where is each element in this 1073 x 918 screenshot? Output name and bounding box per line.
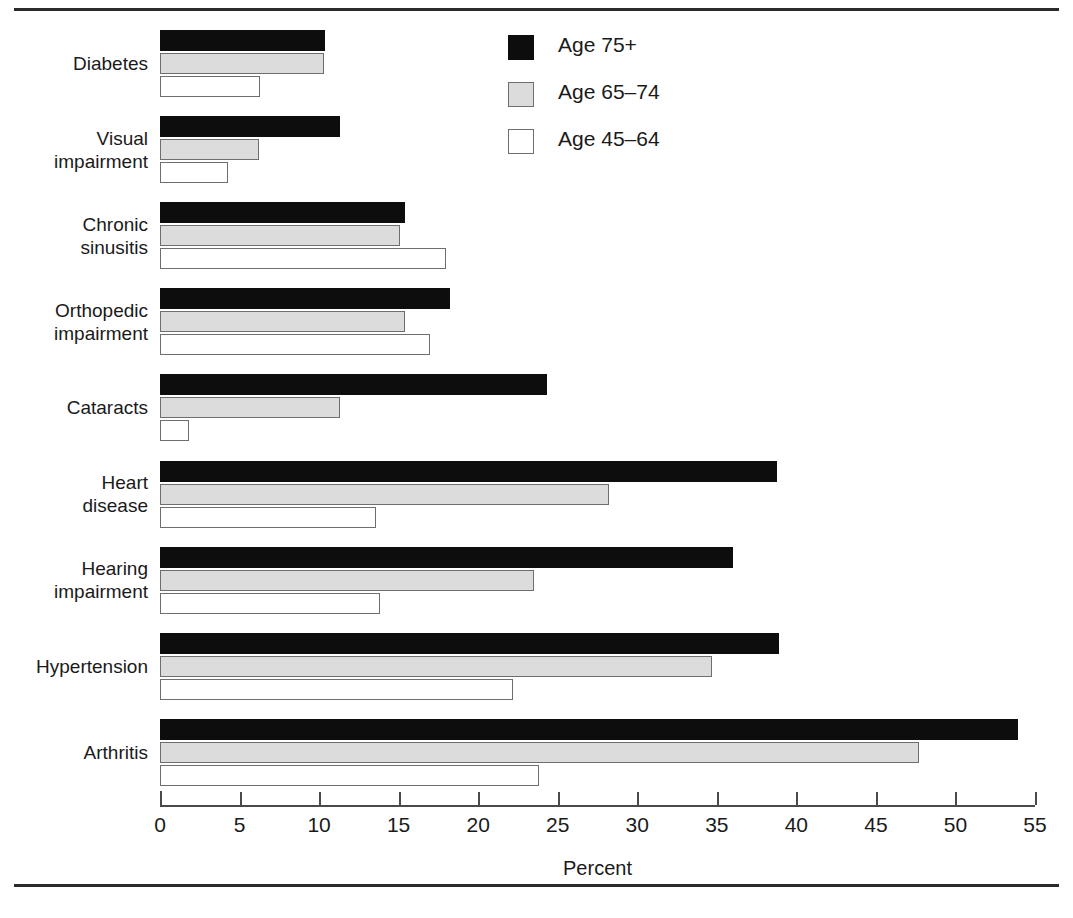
x-axis-tick	[319, 792, 321, 805]
x-axis-tick	[478, 792, 480, 805]
bar	[160, 162, 228, 183]
x-axis-tick	[240, 792, 242, 805]
category-label: Heart disease	[0, 471, 148, 517]
category-axis-labels: DiabetesVisual impairmentChronic sinusit…	[0, 30, 148, 805]
bar-group	[160, 288, 1035, 374]
bar-group	[160, 633, 1035, 719]
x-axis-tick-label: 25	[546, 813, 569, 837]
legend-swatch-icon	[508, 35, 534, 60]
bar	[160, 202, 405, 223]
bar	[160, 633, 779, 654]
bar	[160, 507, 376, 528]
bar	[160, 397, 340, 418]
bar	[160, 311, 405, 332]
legend-label: Age 75+	[558, 33, 637, 57]
legend-label: Age 65–74	[558, 80, 660, 104]
bar	[160, 679, 513, 700]
x-axis-tick-label: 45	[864, 813, 887, 837]
legend-item: Age 75+	[508, 33, 788, 80]
x-axis-tick-label: 5	[234, 813, 246, 837]
bar-group	[160, 719, 1035, 805]
bar	[160, 461, 777, 482]
legend-swatch-icon	[508, 129, 534, 154]
x-axis-tick-label: 35	[705, 813, 728, 837]
x-axis-tick-label: 20	[466, 813, 489, 837]
x-axis-tick-label: 50	[944, 813, 967, 837]
bar-group	[160, 547, 1035, 633]
bar	[160, 656, 712, 677]
bar	[160, 248, 446, 269]
x-axis-title: Percent	[160, 857, 1035, 880]
category-label: Hearing impairment	[0, 557, 148, 603]
category-label: Cataracts	[0, 396, 148, 419]
top-divider-rule	[14, 8, 1059, 11]
x-axis-tick	[717, 792, 719, 805]
x-axis-tick-label: 40	[785, 813, 808, 837]
bar	[160, 374, 547, 395]
bar	[160, 116, 340, 137]
bar	[160, 765, 539, 786]
bar	[160, 288, 450, 309]
x-axis-tick	[399, 792, 401, 805]
chart-page: DiabetesVisual impairmentChronic sinusit…	[0, 0, 1073, 918]
category-label: Arthritis	[0, 741, 148, 764]
bar	[160, 484, 609, 505]
category-label: Chronic sinusitis	[0, 213, 148, 259]
bar-group	[160, 374, 1035, 460]
legend-swatch-icon	[508, 82, 534, 107]
bar	[160, 53, 324, 74]
x-axis-tick	[796, 792, 798, 805]
x-axis-tick	[876, 792, 878, 805]
bar-group	[160, 461, 1035, 547]
x-axis-tick	[1035, 792, 1037, 805]
bar	[160, 719, 1018, 740]
x-axis-tick-label: 30	[626, 813, 649, 837]
x-axis-tick-label: 0	[154, 813, 166, 837]
bar	[160, 30, 325, 51]
x-axis-tick	[160, 792, 162, 805]
category-label: Orthopedic impairment	[0, 299, 148, 345]
bar	[160, 420, 189, 441]
x-axis-tick	[955, 792, 957, 805]
bar	[160, 139, 259, 160]
x-axis-tick-label: 10	[307, 813, 330, 837]
bar	[160, 593, 380, 614]
bar	[160, 570, 534, 591]
bar	[160, 225, 400, 246]
bar	[160, 334, 430, 355]
bar	[160, 547, 733, 568]
legend-item: Age 45–64	[508, 127, 788, 174]
x-axis-tick-label: 55	[1023, 813, 1046, 837]
x-axis-tick	[558, 792, 560, 805]
category-label: Hypertension	[0, 655, 148, 678]
x-axis-tick	[637, 792, 639, 805]
legend-label: Age 45–64	[558, 127, 660, 151]
x-axis-line	[160, 805, 1035, 807]
bar	[160, 76, 260, 97]
bar	[160, 742, 919, 763]
bar-group	[160, 202, 1035, 288]
category-label: Visual impairment	[0, 127, 148, 173]
category-label: Diabetes	[0, 52, 148, 75]
chart-legend: Age 75+Age 65–74Age 45–64	[508, 33, 788, 174]
x-axis-tick-label: 15	[387, 813, 410, 837]
legend-item: Age 65–74	[508, 80, 788, 127]
x-axis: Percent 0510152025303540455055	[160, 805, 1035, 885]
